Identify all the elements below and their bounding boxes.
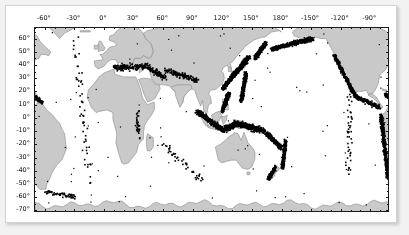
y-tick — [34, 131, 37, 132]
y-tick — [34, 58, 36, 59]
x-tick — [104, 209, 105, 212]
x-tick — [351, 27, 352, 29]
y-tick-label: -40° — [8, 166, 30, 174]
y-tick — [34, 118, 37, 119]
y-tick — [386, 78, 389, 79]
y-tick — [386, 184, 389, 185]
y-tick — [34, 39, 37, 40]
y-tick — [34, 111, 36, 112]
y-tick — [387, 85, 389, 86]
y-tick — [387, 124, 389, 125]
y-tick-label: -50° — [8, 179, 30, 187]
y-tick-label: 30° — [8, 73, 30, 81]
x-tick — [163, 27, 164, 30]
y-tick — [34, 52, 37, 53]
x-tick — [291, 27, 292, 29]
y-tick — [387, 45, 389, 46]
y-tick — [34, 45, 36, 46]
world-seismicity-map-canvas — [35, 28, 389, 212]
y-tick — [386, 39, 389, 40]
y-tick — [386, 144, 389, 145]
x-tick — [203, 27, 204, 29]
x-tick-label: 0° — [99, 14, 106, 22]
x-tick — [45, 27, 46, 30]
x-tick — [311, 209, 312, 212]
y-tick — [34, 72, 36, 73]
y-tick — [34, 191, 36, 192]
x-tick — [124, 210, 125, 212]
y-tick — [386, 131, 389, 132]
y-tick-label: -30° — [8, 153, 30, 161]
y-tick — [34, 144, 37, 145]
x-tick — [65, 27, 66, 29]
x-tick — [193, 27, 194, 30]
x-tick — [252, 209, 253, 212]
x-tick — [351, 210, 352, 212]
x-tick — [282, 209, 283, 212]
x-tick — [380, 210, 381, 212]
x-tick — [193, 209, 194, 212]
x-tick — [341, 209, 342, 212]
x-tick-label: -30° — [67, 14, 81, 22]
x-tick — [134, 209, 135, 212]
x-tick-label: -120° — [331, 14, 349, 22]
x-tick — [153, 210, 154, 212]
x-tick — [370, 209, 371, 212]
y-tick-label: 40° — [8, 60, 30, 68]
x-tick — [222, 27, 223, 30]
y-tick-label: 10° — [8, 100, 30, 108]
y-tick — [34, 197, 37, 198]
x-tick-label: 60° — [156, 14, 168, 22]
x-tick-label: 30° — [127, 14, 139, 22]
map-plot-area — [34, 27, 389, 212]
y-tick — [34, 184, 37, 185]
y-tick — [34, 171, 37, 172]
x-tick — [35, 27, 36, 29]
x-tick-label: -60° — [37, 14, 51, 22]
x-tick — [163, 209, 164, 212]
y-tick — [34, 138, 36, 139]
y-tick — [386, 158, 389, 159]
y-tick-label: 0° — [8, 113, 30, 121]
figure-panel: -60°-30°0°30°60°90°120°150°180°-150°-120… — [5, 5, 397, 223]
x-tick — [94, 27, 95, 29]
y-tick — [386, 197, 389, 198]
x-tick — [153, 27, 154, 29]
x-tick — [114, 210, 115, 212]
y-tick — [34, 158, 37, 159]
y-tick-label: 20° — [8, 86, 30, 94]
y-tick — [386, 210, 389, 211]
y-tick — [34, 164, 36, 165]
x-tick — [301, 27, 302, 29]
y-tick-label: -10° — [8, 126, 30, 134]
x-tick — [331, 27, 332, 29]
x-tick — [262, 27, 263, 29]
y-tick — [386, 171, 389, 172]
y-tick — [386, 105, 389, 106]
y-tick — [387, 98, 389, 99]
x-tick — [203, 210, 204, 212]
y-tick — [387, 138, 389, 139]
x-tick — [173, 210, 174, 212]
x-tick — [74, 27, 75, 30]
y-tick — [34, 204, 36, 205]
y-tick — [387, 204, 389, 205]
x-tick — [94, 210, 95, 212]
x-tick — [65, 210, 66, 212]
x-tick-label: 120° — [214, 14, 230, 22]
x-tick — [143, 210, 144, 212]
y-tick — [387, 191, 389, 192]
x-tick — [104, 27, 105, 30]
y-tick-label: 50° — [8, 47, 30, 55]
y-tick — [34, 177, 36, 178]
x-tick — [232, 27, 233, 29]
x-tick — [262, 210, 263, 212]
x-tick — [301, 210, 302, 212]
x-tick-label: -90° — [362, 14, 376, 22]
y-tick-label: -60° — [8, 192, 30, 200]
x-tick — [282, 27, 283, 30]
x-tick — [84, 210, 85, 212]
x-tick-label: 150° — [243, 14, 259, 22]
x-tick — [360, 27, 361, 29]
y-tick — [386, 65, 389, 66]
